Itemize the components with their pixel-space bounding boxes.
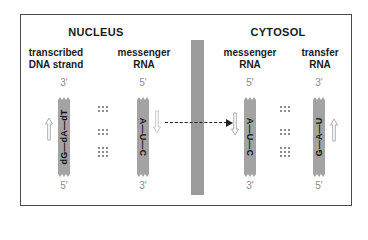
label-line-2: RNA	[224, 59, 277, 71]
label-line-2: RNA	[301, 59, 338, 71]
dna-bottom-end: 5′	[60, 180, 67, 191]
mrna-cytosol-strand: A—U—C	[244, 97, 256, 177]
trna-label: transfer RNA	[301, 47, 338, 71]
dna-strand-label: transcribed DNA strand	[29, 47, 84, 71]
label-line-2: DNA strand	[29, 59, 84, 71]
trna-top-end: 3′	[315, 77, 322, 88]
label-line-2: RNA	[118, 59, 171, 71]
mrna-cytosol-top-end: 5′	[246, 77, 253, 88]
dna-sequence: dG—dA—dT	[59, 109, 69, 164]
label-line-1: transcribed	[29, 47, 84, 59]
dna-top-end: 3′	[60, 77, 67, 88]
mrna-nucleus-sequence: A—U—C	[138, 118, 148, 157]
label-line-1: messenger	[118, 47, 171, 59]
cytosol-title: CYTOSOL	[250, 26, 305, 38]
nucleus-title: NUCLEUS	[68, 26, 123, 38]
dna-strand: dG—dA—dT	[58, 97, 70, 177]
mrna-nucleus-strand: A—U—C	[137, 97, 149, 177]
mrna-nucleus-top-end: 5′	[139, 77, 146, 88]
arrow-up-icon	[330, 118, 338, 142]
nuclear-envelope-divider	[191, 40, 204, 195]
hydrogen-bond-dots-nucleus	[96, 104, 112, 162]
trna-strand: G—A—U	[313, 97, 325, 177]
mrna-nucleus-bottom-end: 3′	[139, 180, 146, 191]
mrna-cytosol-label: messenger RNA	[224, 47, 277, 71]
arrow-up-icon	[45, 117, 53, 141]
arrowhead-icon	[226, 119, 233, 127]
mrna-cytosol-sequence: A—U—C	[245, 118, 255, 157]
mrna-export-arrow	[165, 122, 227, 123]
hydrogen-bond-dots-cytosol	[278, 104, 294, 162]
label-line-1: messenger	[224, 47, 277, 59]
mrna-nucleus-label: messenger RNA	[118, 47, 171, 71]
trna-sequence: G—A—U	[314, 118, 324, 157]
arrow-down-icon	[153, 110, 161, 134]
label-line-1: transfer	[301, 47, 338, 59]
mrna-cytosol-bottom-end: 3′	[246, 180, 253, 191]
trna-bottom-end: 5′	[315, 180, 322, 191]
